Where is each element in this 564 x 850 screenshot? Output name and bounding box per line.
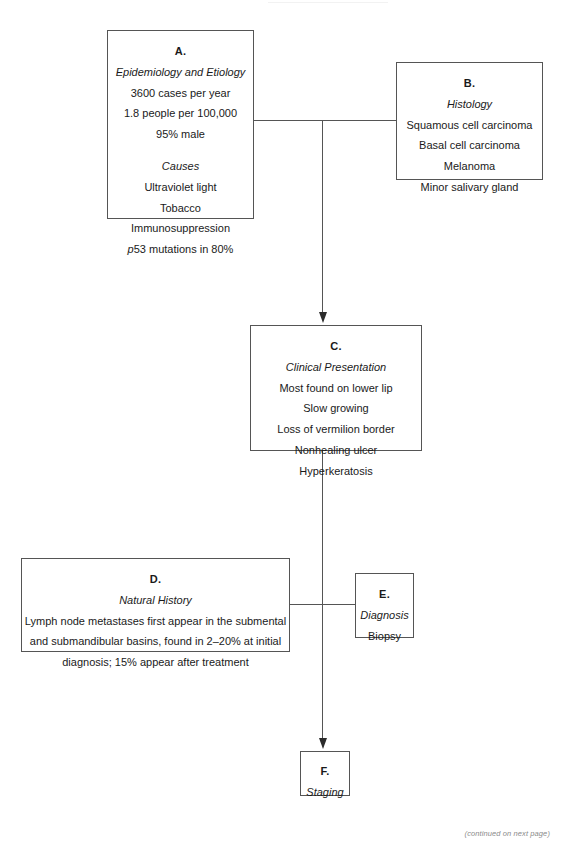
box-a-subtitle: Epidemiology and Etiology bbox=[116, 66, 246, 78]
box-c-line-4: Nonhealing ulcer bbox=[295, 444, 378, 456]
connector-d-to-e bbox=[290, 604, 355, 605]
box-a-line-3: 95% male bbox=[156, 128, 205, 140]
connector-a-to-c bbox=[322, 120, 323, 312]
box-f-subtitle: Staging bbox=[306, 786, 343, 798]
box-d-subtitle: Natural History bbox=[119, 594, 192, 606]
box-a-cause-4-rest: 53 mutations in 80% bbox=[134, 243, 234, 255]
box-b-line-1: Squamous cell carcinoma bbox=[407, 119, 533, 131]
box-a-cause-3: Immunosuppression bbox=[131, 222, 230, 234]
box-b-line-2: Basal cell carcinoma bbox=[419, 139, 520, 151]
box-b-line-4: Minor salivary gland bbox=[421, 181, 519, 193]
box-c-line-2: Slow growing bbox=[303, 402, 368, 414]
flowchart-box-f: F. Staging bbox=[300, 751, 350, 796]
box-a-subtitle-causes: Causes bbox=[162, 160, 199, 172]
flowchart-page: A. Epidemiology and Etiology 3600 cases … bbox=[0, 0, 564, 850]
box-d-letter: D. bbox=[150, 573, 161, 585]
box-e-line-1: Biopsy bbox=[368, 630, 401, 642]
box-c-letter: C. bbox=[330, 340, 341, 352]
flowchart-box-e: E. Diagnosis Biopsy bbox=[355, 573, 414, 638]
page-trim-mark bbox=[268, 2, 388, 3]
box-e-letter: E. bbox=[379, 588, 390, 600]
box-a-line-2: 1.8 people per 100,000 bbox=[124, 107, 237, 119]
box-a-cause-1: Ultraviolet light bbox=[144, 181, 216, 193]
arrowhead-to-box-f bbox=[319, 738, 327, 749]
flowchart-box-b: B. Histology Squamous cell carcinoma Bas… bbox=[396, 62, 543, 180]
box-c-subtitle: Clinical Presentation bbox=[286, 361, 386, 373]
connector-a-to-b bbox=[254, 120, 396, 121]
box-f-letter: F. bbox=[321, 765, 330, 777]
flowchart-box-c: C. Clinical Presentation Most found on l… bbox=[250, 325, 422, 451]
box-b-letter: B. bbox=[464, 77, 475, 89]
box-e-subtitle: Diagnosis bbox=[360, 609, 408, 621]
box-a-spacer bbox=[108, 144, 253, 155]
box-b-line-3: Melanoma bbox=[444, 160, 495, 172]
box-c-line-5: Hyperkeratosis bbox=[299, 465, 372, 477]
connector-c-to-f bbox=[322, 451, 323, 738]
box-d-line-2: and submandibular basins, found in 2–20%… bbox=[30, 635, 281, 647]
box-c-line-1: Most found on lower lip bbox=[279, 382, 392, 394]
arrowhead-to-box-c bbox=[319, 312, 327, 323]
box-a-letter: A. bbox=[175, 45, 186, 57]
box-a-line-1: 3600 cases per year bbox=[131, 87, 231, 99]
box-b-subtitle: Histology bbox=[447, 98, 492, 110]
box-a-cause-4: p53 mutations in 80% bbox=[128, 243, 234, 255]
box-a-cause-2: Tobacco bbox=[160, 202, 201, 214]
flowchart-box-a: A. Epidemiology and Etiology 3600 cases … bbox=[107, 30, 254, 219]
box-d-line-3: diagnosis; 15% appear after treatment bbox=[62, 656, 249, 668]
continued-note: (continued on next page) bbox=[465, 829, 550, 838]
box-c-line-3: Loss of vermilion border bbox=[277, 423, 394, 435]
box-d-line-1: Lymph node metastases first appear in th… bbox=[25, 615, 286, 627]
flowchart-box-d: D. Natural History Lymph node metastases… bbox=[21, 558, 290, 652]
